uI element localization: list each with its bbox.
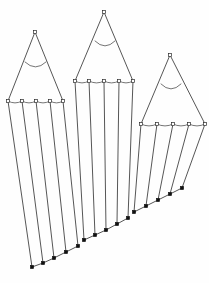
right-peak-drop-line <box>158 124 173 200</box>
right-peak-base-marker <box>203 122 206 125</box>
left-peak-base-marker <box>34 99 37 102</box>
left-peak-left-edge <box>8 32 35 101</box>
right-peak-drop-line <box>170 124 189 194</box>
left-peak-base-marker <box>20 99 23 102</box>
right-peak-right-edge <box>170 55 205 124</box>
right-peak-base-marker <box>155 122 158 125</box>
left-peak-base-marker <box>6 99 9 102</box>
right-peak-base-marker <box>187 122 190 125</box>
middle-peak-apex-marker <box>102 10 105 13</box>
left-peak-apex-marker <box>33 30 36 33</box>
right-peak-apex-marker <box>168 53 171 56</box>
middle-peak-bottom-marker <box>82 238 85 241</box>
middle-peak-bottom-marker <box>104 228 107 231</box>
left-peak-inner-arc <box>25 62 46 67</box>
middle-peak-base-scallop <box>104 81 119 83</box>
middle-peak-base-marker <box>102 79 105 82</box>
left-peak-drop-line <box>63 101 78 246</box>
left-peak-bottom-marker <box>30 265 33 268</box>
middle-peak-bottom-marker <box>126 216 129 219</box>
left-peak-drop-line <box>50 101 66 252</box>
middle-peak-bottom-marker <box>93 233 96 236</box>
right-peak-bottom-marker <box>144 204 147 207</box>
right-peak-base-marker <box>139 122 142 125</box>
left-peak-base-scallop <box>22 101 36 103</box>
middle-peak-bottom-marker <box>115 222 118 225</box>
figure-canvas <box>0 0 209 283</box>
right-peak-base-scallop <box>173 124 189 126</box>
right-peak-bottom-marker <box>132 210 135 213</box>
left-peak-base-scallop <box>36 101 50 103</box>
right-peak-drop-line <box>182 124 205 188</box>
right-peak-left-edge <box>141 55 170 124</box>
left-peak-drop-line <box>8 101 32 267</box>
left-peak-drop-line <box>36 101 54 258</box>
middle-peak-base-scallop <box>89 81 104 83</box>
middle-peak-drop-line <box>128 81 133 218</box>
left-peak-base-marker <box>48 99 51 102</box>
right-peak-bottom-marker <box>168 192 171 195</box>
right-peak-base-scallop <box>157 124 173 126</box>
middle-peak-drop-line <box>104 81 106 230</box>
left-peak-base-scallop <box>8 101 22 103</box>
left-peak-drop-line <box>22 101 43 263</box>
right-peak-base-scallop <box>141 124 157 126</box>
middle-peak-drop-line <box>75 81 84 240</box>
middle-peak-left-edge <box>75 12 104 81</box>
middle-peak-base-scallop <box>119 81 133 83</box>
middle-peak-base-marker <box>87 79 90 82</box>
right-peak-drop-line <box>146 124 157 206</box>
right-peak-bottom-marker <box>156 198 159 201</box>
left-peak-bottom-marker <box>76 244 79 247</box>
left-peak-base-marker <box>61 99 64 102</box>
left-peak-base-scallop <box>50 101 63 103</box>
right-peak-bottom-marker <box>180 186 183 189</box>
middle-peak-base-scallop <box>75 81 89 83</box>
middle-peak-right-edge <box>104 12 133 81</box>
middle-peak-base-marker <box>131 79 134 82</box>
right-peak-base-scallop <box>189 124 205 126</box>
left-peak-bottom-marker <box>41 261 44 264</box>
middle-peak-inner-arc <box>95 41 115 46</box>
line-diagram <box>0 0 209 283</box>
right-peak-inner-arc <box>161 84 181 89</box>
middle-peak-base-marker <box>117 79 120 82</box>
right-peak-drop-line <box>134 124 141 212</box>
middle-peak-drop-line <box>117 81 119 224</box>
right-peak-base-marker <box>171 122 174 125</box>
left-peak-bottom-marker <box>52 256 55 259</box>
left-peak-bottom-marker <box>64 250 67 253</box>
middle-peak-drop-line <box>89 81 95 235</box>
middle-peak-base-marker <box>73 79 76 82</box>
